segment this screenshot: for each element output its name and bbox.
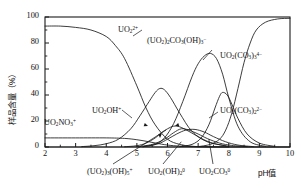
y-tick-label-80: 80	[0, 38, 39, 46]
x-axis-title: pH值	[258, 170, 276, 178]
x-tick-label-9: 9	[249, 150, 269, 158]
x-tick-label-2: 2	[35, 150, 55, 158]
series-label-UO2(CO3)3(4-): UO2(CO3)34−	[220, 52, 262, 61]
inline-leader-line-3	[122, 110, 132, 118]
chart-root: 020406080100 2345678910 样品含量（%） pH值 UO22…	[0, 0, 301, 189]
speciation-plot	[0, 0, 301, 189]
series-label-UO2NO3(+): UO2NO3+	[44, 119, 76, 128]
curve-UO2(CO3)3(4-)	[198, 18, 290, 146]
label-leader-lines	[113, 30, 218, 164]
series-label-UO2(2+): UO22+	[118, 26, 138, 35]
y-axis-title: 样品含量（%）	[8, 70, 16, 125]
series-label-UO2(OH)2(0): UO2(OH)20	[148, 168, 185, 177]
x-tick-label-10: 10	[280, 150, 300, 158]
y-tick-label-40: 40	[0, 90, 39, 98]
inline-leader-line-1	[203, 50, 212, 60]
x-tick-label-5: 5	[127, 150, 147, 158]
series-label-(UO2)2CO3(OH)3(-): (UO2)2CO3(OH)3−	[147, 37, 206, 46]
y-tick-label-100: 100	[0, 12, 39, 20]
curve-(UO2)3(OH)5(+)	[125, 126, 226, 147]
series-label-UO2OH(+): UO2OH+	[92, 107, 121, 116]
series-label-(UO2)3(OH)5(+): (UO2)3(OH)5+	[87, 168, 132, 177]
series-label-UO2CO3(0): UO2CO30	[199, 168, 230, 177]
curve-UO2(CO3)2(2-)	[180, 92, 275, 146]
annotation-arrow-0	[144, 123, 149, 128]
series-label-UO2(CO3)2(2-): UO2(CO3)22−	[220, 107, 262, 116]
x-tick-label-7: 7	[188, 150, 208, 158]
x-tick-label-8: 8	[219, 150, 239, 158]
annotation-arrow-2	[158, 134, 161, 138]
y-tick-label-60: 60	[0, 64, 39, 72]
y-tick-label-20: 20	[0, 116, 39, 124]
x-tick-label-3: 3	[66, 150, 86, 158]
y-tick-label-0: 0	[0, 142, 39, 150]
x-tick-label-6: 6	[158, 150, 178, 158]
x-tick-label-4: 4	[96, 150, 116, 158]
